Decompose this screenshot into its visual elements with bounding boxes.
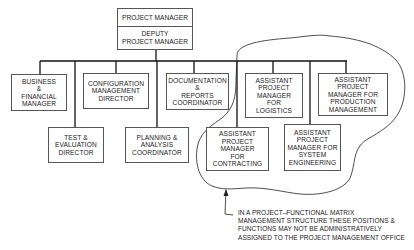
configuration-management-director-box: CONFIGURATION MANAGEMENT DIRECTOR — [83, 73, 149, 109]
apm-logistics-box: ASSISTANT PROJECT MANAGER FOR LOGISTICS — [245, 73, 303, 118]
project-manager-box: PROJECT MANAGER DEPUTY PROJECT MANAGER — [117, 8, 193, 50]
apm-production-management-box: ASSISTANT PROJECT MANAGER FOR PRODUCTION… — [318, 73, 388, 116]
business-financial-manager-box: BUSINESS & FINANCIAL MANAGER — [11, 74, 67, 111]
project-manager-title: PROJECT MANAGER — [118, 9, 192, 27]
documentation-reports-coordinator-box: DOCUMENTATION & REPORTS COORDINATOR — [166, 73, 229, 110]
deputy-project-manager-title: DEPUTY PROJECT MANAGER — [118, 26, 192, 49]
planning-analysis-coordinator-box: PLANNING & ANALYSIS COORDINATOR — [125, 127, 189, 163]
apm-system-engineering-box: ASSISTANT PROJECT MANAGER FOR SYSTEM ENG… — [284, 124, 341, 171]
test-evaluation-director-box: TEST & EVALUATION DIRECTOR — [48, 127, 104, 163]
apm-contracting-box: ASSISTANT PROJECT MANAGER FOR CONTRACTIN… — [206, 127, 269, 171]
matrix-structure-note: IN A PROJECT–FUNCTIONAL MATRIX MANAGEMEN… — [238, 209, 405, 242]
